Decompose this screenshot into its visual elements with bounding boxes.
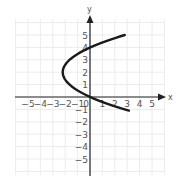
y-tick-label: 2 — [82, 68, 88, 78]
y-tick-label: 3 — [82, 55, 88, 65]
y-tick-label: 1 — [82, 80, 88, 90]
y-axis-label: y — [87, 5, 92, 14]
coordinate-plane: x y −5−4−3−2−1012345 −5−4−3−2−112345 — [0, 0, 179, 180]
x-tick-label: −3 — [46, 99, 59, 109]
x-tick-label: 3 — [124, 99, 130, 109]
y-tick-label: −3 — [75, 130, 88, 140]
x-tick-labels: −5−4−3−2−1012345 — [21, 99, 155, 109]
x-tick-label: 4 — [137, 99, 143, 109]
x-tick-label: −2 — [59, 99, 72, 109]
y-tick-label: −4 — [75, 142, 89, 152]
y-axis-arrow-icon — [87, 15, 94, 23]
y-tick-label: −2 — [75, 117, 88, 127]
x-axis-label: x — [168, 93, 173, 102]
x-tick-label: −5 — [21, 99, 34, 109]
y-tick-label: −5 — [75, 155, 88, 165]
y-tick-label: −1 — [75, 105, 88, 115]
y-tick-label: 5 — [82, 31, 88, 41]
x-tick-label: 5 — [149, 99, 155, 109]
